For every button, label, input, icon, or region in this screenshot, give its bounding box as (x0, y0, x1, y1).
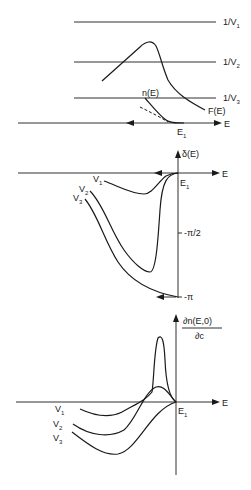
curve-delta-v2 (90, 173, 178, 272)
label-1-over-v3: 1/V3 (223, 93, 241, 105)
top-panel: 1/V1 1/V2 1/V3 F(E) n(E) E E1 (18, 17, 241, 139)
curve-F-of-E (102, 42, 205, 110)
axis-left-arrow (126, 120, 134, 126)
bottom-panel: ∂n(E,0) ∂c E E1 V1 V2 V3 (16, 314, 228, 475)
axis-label-E: E (224, 119, 230, 129)
axis-arrowhead (212, 170, 220, 176)
axis-arrowhead (214, 120, 222, 126)
label-v2: V2 (79, 184, 89, 196)
curve-dn-v3 (72, 402, 176, 454)
curve-n-of-E-dashed (140, 107, 168, 122)
tick-label-minus-pi-over-2: -π/2 (184, 228, 201, 238)
edge-label-E1: E1 (180, 178, 190, 190)
figure: 1/V1 1/V2 1/V3 F(E) n(E) E E1 δ(E) E E1 … (0, 0, 251, 490)
curve-delta-v3 (85, 199, 178, 297)
edge-label-E1: E1 (177, 127, 187, 139)
curve-delta-v1 (104, 173, 178, 194)
label-1-over-v2: 1/V2 (223, 57, 241, 69)
dn-axis-denominator: ∂c (195, 331, 204, 341)
dn-axis-numerator: ∂n(E,0) (183, 316, 212, 326)
middle-panel: δ(E) E E1 -π/2 -π V1 V2 V3 (18, 149, 228, 302)
axis-left-arrow (154, 170, 162, 176)
label-1-over-v1: 1/V1 (223, 17, 241, 29)
delta-axis-label: δ(E) (182, 149, 199, 159)
label-n-of-E: n(E) (142, 88, 159, 98)
label-v3: V3 (73, 193, 83, 205)
label-F-of-E: F(E) (208, 106, 226, 116)
curve-dn-v1 (80, 337, 176, 416)
delta-axis-arrowhead (175, 150, 181, 158)
axis-label-E: E (222, 169, 228, 179)
axis-label-E: E (222, 398, 228, 408)
edge-label-E1: E1 (178, 406, 188, 418)
label-v1: V1 (55, 404, 65, 416)
label-v1: V1 (93, 174, 103, 186)
dn-axis-arrowhead (173, 314, 179, 322)
curve-n-of-E (145, 98, 184, 123)
axis-arrowhead (212, 399, 220, 405)
tick-label-minus-pi: -π (184, 292, 193, 302)
label-v3: V3 (53, 433, 63, 445)
label-v2: V2 (53, 419, 63, 431)
